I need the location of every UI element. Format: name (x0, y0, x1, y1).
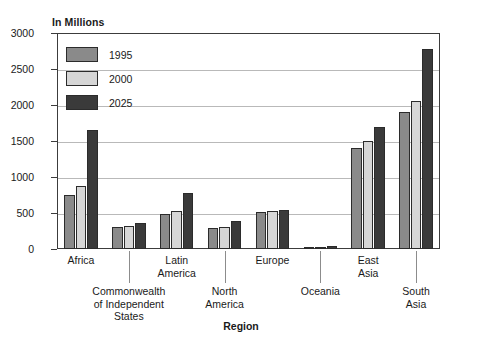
legend-label: 1995 (109, 49, 132, 61)
x-axis-tick-label: SouthAsia (402, 285, 429, 310)
x-axis-title: Region (0, 320, 482, 332)
bar-chart: In Millions 050010001500200025003000 Afr… (0, 0, 482, 346)
x-axis-tick-label: Commonwealthof IndependentStates (92, 285, 165, 323)
legend-label: 2000 (109, 73, 132, 85)
legend-swatch (66, 47, 98, 62)
y-axis-tick-label: 2500 (0, 63, 34, 75)
bar (124, 226, 135, 249)
bar (208, 228, 219, 249)
x-axis-tick-label: EastAsia (358, 254, 379, 279)
bar-group (344, 33, 392, 249)
x-axis-tick-label: Africa (68, 254, 95, 267)
bar (399, 112, 410, 249)
legend-swatch (66, 95, 98, 110)
y-axis-unit-caption: In Millions (52, 16, 104, 28)
x-axis-tick-label-line: North (205, 285, 244, 298)
bar (76, 186, 87, 249)
legend-label: 2025 (109, 97, 132, 109)
bar (315, 247, 326, 249)
x-axis-tick-label-line: America (205, 298, 244, 311)
x-axis-tick-label-line: Latin (157, 254, 196, 267)
category-leader-line (416, 251, 417, 283)
bar (231, 221, 242, 249)
bar (351, 148, 362, 249)
x-axis-tick-label: LatinAmerica (157, 254, 196, 279)
x-axis-tick-label-line: of Independent (92, 298, 165, 311)
bar (135, 223, 146, 249)
x-axis-tick-label-line: Europe (256, 254, 290, 267)
bar (374, 127, 385, 249)
y-axis-tick-mark (51, 249, 57, 250)
y-axis-tick-label: 1000 (0, 171, 34, 183)
y-axis-tick-label: 2000 (0, 99, 34, 111)
bar (411, 101, 422, 249)
x-axis-tick-label: Europe (256, 254, 290, 267)
bar (422, 49, 433, 249)
bar (267, 211, 278, 249)
x-axis-tick-label-line: Africa (68, 254, 95, 267)
category-leader-line (320, 251, 321, 283)
category-leader-line (225, 251, 226, 283)
legend-item: 2000 (66, 68, 132, 89)
legend-swatch (66, 71, 98, 86)
bar (219, 227, 230, 249)
y-axis-tick-label: 1500 (0, 135, 34, 147)
x-axis-tick-label-line: Asia (402, 298, 429, 311)
bar-group (249, 33, 297, 249)
x-axis-tick-label-line: South (402, 285, 429, 298)
bar (363, 141, 374, 249)
bar (64, 195, 75, 249)
bar (87, 130, 98, 249)
bar (160, 214, 171, 249)
bar-group (201, 33, 249, 249)
bar (256, 212, 267, 249)
bar (304, 247, 315, 249)
legend-item: 1995 (66, 44, 132, 65)
bar (112, 227, 123, 249)
x-axis-tick-label-line: Commonwealth (92, 285, 165, 298)
bar-group (153, 33, 201, 249)
x-axis-tick-label-line: Oceania (301, 285, 340, 298)
x-axis-tick-label-line: Asia (358, 267, 379, 280)
bar-group (296, 33, 344, 249)
bar (279, 210, 290, 249)
x-axis-tick-label-line: East (358, 254, 379, 267)
y-axis-tick-label: 3000 (0, 27, 34, 39)
legend: 199520002025 (66, 44, 132, 116)
bar (171, 211, 182, 249)
bar (183, 193, 194, 249)
y-axis-tick-label: 500 (0, 207, 34, 219)
category-leader-line (129, 251, 130, 283)
x-axis-tick-label-line: America (157, 267, 196, 280)
x-axis-tick-label: NorthAmerica (205, 285, 244, 310)
bar-group (392, 33, 440, 249)
bar (327, 246, 338, 249)
x-axis-tick-label: Oceania (301, 285, 340, 298)
y-axis-tick-label: 0 (0, 243, 34, 255)
legend-item: 2025 (66, 92, 132, 113)
